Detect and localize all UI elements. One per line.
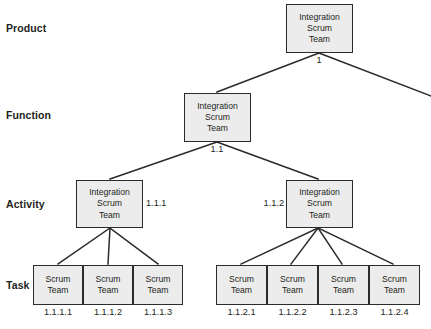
node-activity-left-line1: Integration <box>89 187 130 198</box>
wbs-label-task-1-1-2-3: 1.1.2.3 <box>318 307 369 317</box>
node-activity-left-line2: Scrum <box>97 198 122 209</box>
node-activity-right-line3: Team <box>309 210 330 221</box>
node-function-line3: Team <box>207 123 228 134</box>
node-product-integration-scrum-team[interactable]: Integration Scrum Team <box>286 4 353 53</box>
wbs-label-activity-left: 1.1.1 <box>146 198 178 208</box>
wbs-label-function: 1.1 <box>202 144 232 154</box>
row-label-function: Function <box>6 109 51 121</box>
edge-activity-left-to-task-1 <box>58 228 110 264</box>
node-product-line3: Team <box>309 34 330 45</box>
node-function-line2: Scrum <box>205 112 230 123</box>
node-function-line1: Integration <box>197 101 238 112</box>
node-task-1-1-1-1-line1: Scrum <box>46 274 71 285</box>
node-task-1-1-1-2[interactable]: Scrum Team <box>83 265 133 305</box>
wbs-label-task-1-1-2-1: 1.1.2.1 <box>216 307 267 317</box>
node-task-1-1-1-2-line1: Scrum <box>96 274 121 285</box>
node-task-1-1-2-4[interactable]: Scrum Team <box>369 265 420 305</box>
node-activity-right-integration-scrum-team[interactable]: Integration Scrum Team <box>286 180 353 228</box>
node-task-1-1-1-3[interactable]: Scrum Team <box>133 265 183 305</box>
edge-function-to-activity-right <box>217 142 318 179</box>
wbs-label-product: 1 <box>304 55 334 65</box>
edge-activity-left-to-task-3 <box>110 228 158 264</box>
node-activity-left-line3: Team <box>99 210 120 221</box>
node-product-line2: Scrum <box>307 23 332 34</box>
diagram-canvas: Product Function Activity Task Integrati… <box>0 0 431 329</box>
node-task-1-1-2-3-line2: Team <box>333 285 354 296</box>
node-task-1-1-2-4-line2: Team <box>384 285 405 296</box>
node-task-1-1-2-1[interactable]: Scrum Team <box>216 265 267 305</box>
edge-function-to-activity-left <box>110 142 217 179</box>
node-activity-right-line2: Scrum <box>307 198 332 209</box>
edge-activity-right-to-task-2 <box>291 228 318 264</box>
wbs-label-task-1-1-2-2: 1.1.2.2 <box>267 307 318 317</box>
edge-product-to-offscreen-right <box>319 53 431 96</box>
wbs-label-task-1-1-1-1: 1.1.1.1 <box>33 307 83 317</box>
node-task-1-1-2-2[interactable]: Scrum Team <box>267 265 318 305</box>
edge-activity-left-to-task-2 <box>108 228 110 264</box>
edge-activity-right-to-task-1 <box>241 228 318 264</box>
node-function-integration-scrum-team[interactable]: Integration Scrum Team <box>184 93 251 142</box>
node-task-1-1-2-2-line2: Team <box>282 285 303 296</box>
node-task-1-1-1-3-line2: Team <box>147 285 168 296</box>
node-task-1-1-2-2-line1: Scrum <box>280 274 305 285</box>
wbs-label-task-1-1-1-3: 1.1.1.3 <box>133 307 183 317</box>
row-label-product: Product <box>6 22 46 34</box>
node-task-1-1-1-3-line1: Scrum <box>146 274 171 285</box>
node-activity-right-line1: Integration <box>299 187 340 198</box>
row-label-activity: Activity <box>6 198 45 210</box>
node-product-line1: Integration <box>299 12 340 23</box>
node-task-1-1-1-1-line2: Team <box>47 285 68 296</box>
node-task-1-1-2-1-line1: Scrum <box>229 274 254 285</box>
node-activity-left-integration-scrum-team[interactable]: Integration Scrum Team <box>76 180 143 228</box>
wbs-label-task-1-1-2-4: 1.1.2.4 <box>369 307 420 317</box>
node-task-1-1-2-3[interactable]: Scrum Team <box>318 265 369 305</box>
node-task-1-1-2-3-line1: Scrum <box>331 274 356 285</box>
node-task-1-1-1-2-line2: Team <box>97 285 118 296</box>
node-task-1-1-2-4-line1: Scrum <box>382 274 407 285</box>
node-task-1-1-1-1[interactable]: Scrum Team <box>33 265 83 305</box>
node-task-1-1-2-1-line2: Team <box>231 285 252 296</box>
wbs-label-activity-right: 1.1.2 <box>252 198 284 208</box>
row-label-task: Task <box>6 279 30 291</box>
wbs-label-task-1-1-1-2: 1.1.1.2 <box>83 307 133 317</box>
